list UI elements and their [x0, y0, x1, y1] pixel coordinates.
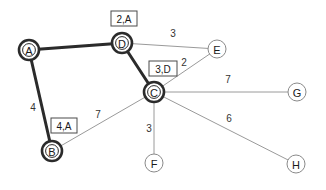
edge-c-h: [162, 96, 289, 160]
node-b[interactable]: B: [42, 141, 62, 161]
edge-d-c: [127, 51, 149, 85]
node-c[interactable]: C: [144, 82, 164, 102]
edge-weight-a-b: 4: [30, 102, 36, 113]
edge-weight-d-e: 3: [170, 28, 176, 39]
node-g[interactable]: G: [288, 83, 306, 101]
distance-tag-text: 4,A: [56, 121, 71, 132]
distance-tag-text: 3,D: [155, 64, 171, 75]
edge-weight-b-c: 7: [95, 109, 101, 120]
node-h[interactable]: H: [287, 155, 305, 173]
edge-weight-c-g: 7: [225, 74, 231, 85]
graph-diagram-canvas: 2,A3,D4,A ABCDEFGH 4327367: [0, 0, 326, 190]
node-d[interactable]: D: [112, 33, 132, 53]
distance-tag-text: 2,A: [116, 14, 131, 25]
node-f[interactable]: F: [145, 154, 163, 172]
edge-weight-c-h: 6: [226, 113, 232, 124]
edge-a-d: [38, 44, 113, 50]
distance-tag-d: 2,A: [111, 11, 137, 26]
edge-d-e: [131, 44, 209, 49]
node-label-c: C: [150, 87, 158, 99]
edge-weight-c-f: 3: [146, 123, 152, 134]
node-a[interactable]: A: [19, 40, 39, 60]
graph-svg: 2,A3,D4,A ABCDEFGH 4327367: [0, 0, 326, 190]
node-e[interactable]: E: [208, 40, 226, 58]
node-layer: ABCDEFGH: [19, 33, 306, 173]
node-label-b: B: [48, 146, 55, 158]
edge-a-b: [31, 59, 50, 142]
edge-weight-c-e: 2: [181, 57, 187, 68]
node-label-d: D: [118, 38, 126, 50]
node-label-g: G: [293, 87, 302, 99]
node-label-e: E: [213, 44, 220, 56]
node-label-h: H: [292, 159, 300, 171]
distance-tag-b: 4,A: [51, 118, 77, 133]
distance-tag-c: 3,D: [149, 61, 177, 76]
node-label-a: A: [25, 45, 33, 57]
node-label-f: F: [151, 158, 158, 170]
